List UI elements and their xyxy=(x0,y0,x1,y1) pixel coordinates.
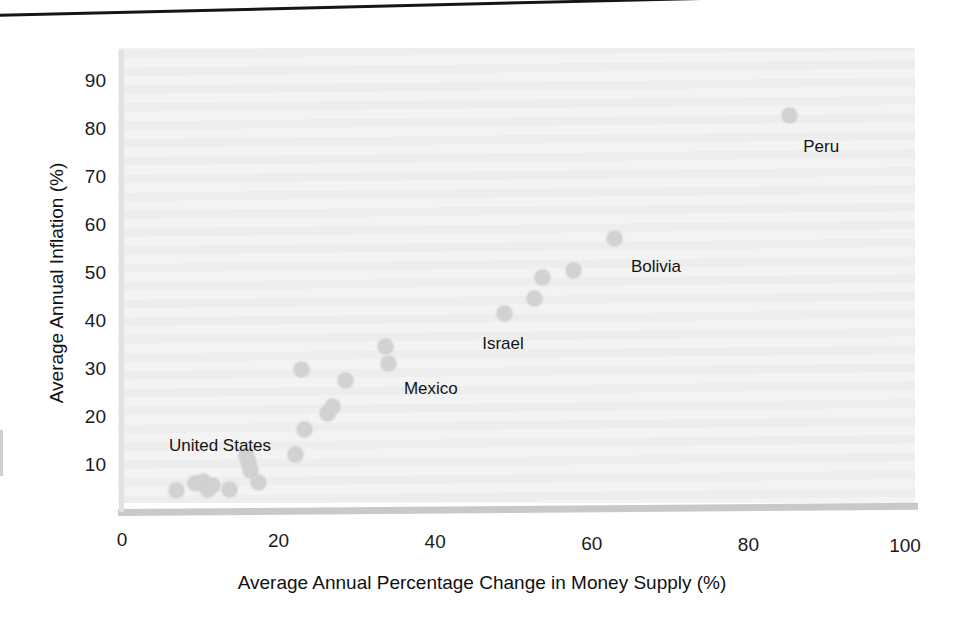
data-point xyxy=(251,475,266,490)
annotation-israel: Israel xyxy=(482,334,524,354)
x-tick-label-0: 0 xyxy=(92,529,152,551)
data-point xyxy=(297,422,312,437)
x-tick-label-100: 100 xyxy=(875,535,935,557)
data-point xyxy=(535,270,550,285)
y-tick-label-60: 60 xyxy=(62,214,106,236)
y-axis-line xyxy=(119,50,124,512)
annotation-mexico: Mexico xyxy=(404,379,458,399)
y-tick-label-90: 90 xyxy=(62,70,106,92)
page-edge-mark xyxy=(0,430,3,476)
x-tick-label-60: 60 xyxy=(562,533,622,555)
y-tick-label-40: 40 xyxy=(62,310,106,332)
data-point xyxy=(288,447,303,462)
y-tick-label-10: 10 xyxy=(62,454,106,476)
annotation-bolivia: Bolivia xyxy=(631,257,681,277)
x-axis-line xyxy=(118,503,918,516)
x-axis-title: Average Annual Percentage Change in Mone… xyxy=(0,572,964,594)
data-point xyxy=(607,231,622,246)
annotation-united-states: United States xyxy=(169,436,271,456)
data-point xyxy=(294,362,309,377)
data-point xyxy=(566,263,581,278)
page-top-rule xyxy=(0,0,964,17)
x-tick-label-80: 80 xyxy=(718,534,778,556)
data-point xyxy=(381,356,396,371)
data-point xyxy=(782,108,797,123)
y-axis-title: Average Annual Inflation (%) xyxy=(46,73,68,493)
y-tick-label-80: 80 xyxy=(62,118,106,140)
scatter-plot-figure: 908070605040302010 020406080100 United S… xyxy=(0,0,964,617)
y-tick-label-20: 20 xyxy=(62,406,106,428)
y-tick-label-30: 30 xyxy=(62,358,106,380)
data-point xyxy=(222,482,237,497)
x-tick-label-20: 20 xyxy=(249,530,309,552)
data-point xyxy=(169,483,184,498)
y-tick-label-50: 50 xyxy=(62,262,106,284)
annotation-peru: Peru xyxy=(803,137,839,157)
y-tick-label-70: 70 xyxy=(62,166,106,188)
x-tick-label-40: 40 xyxy=(405,531,465,553)
